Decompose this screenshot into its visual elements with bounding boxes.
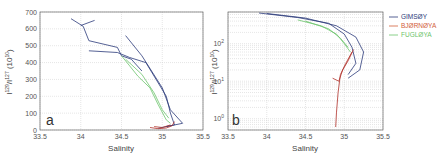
- series-line: [81, 20, 95, 25]
- y-tick-label: 0: [33, 127, 37, 134]
- legend: GIMSØYBJØRNØYAFUGLØYA: [389, 13, 437, 38]
- panel-b-grid: [228, 12, 383, 130]
- panel-a: 33.53434.53535.5 0100200300400500600700 …: [4, 9, 210, 154]
- panel-a-y-ticks: 0100200300400500600700: [25, 9, 37, 134]
- panel-b-y-axis-label: I129/I127 (1010): [209, 49, 219, 95]
- x-tick-label: 35.5: [196, 133, 210, 140]
- x-tick-label: 33.5: [221, 133, 235, 140]
- panel-a-y-axis-label: I129/I127 (1010): [4, 49, 14, 95]
- panel-a-letter: a: [46, 112, 54, 128]
- x-tick-label: 35.5: [376, 133, 390, 140]
- panel-b-letter: b: [232, 112, 240, 128]
- legend-label: GIMSØY: [401, 13, 428, 20]
- series-line: [71, 19, 142, 71]
- series-line: [267, 14, 364, 79]
- legend-label: FUGLØYA: [401, 31, 432, 38]
- panel-b-x-ticks: 33.53434.53535.5: [221, 133, 390, 140]
- panel-a-grid: [40, 12, 203, 130]
- x-tick-label: 34.5: [299, 133, 313, 140]
- y-tick-label: 500: [25, 42, 37, 49]
- y-tick-label: 700: [25, 9, 37, 16]
- x-tick-label: 34: [77, 133, 85, 140]
- panel-a-x-axis-label: Salinity: [108, 144, 134, 153]
- series-line: [89, 51, 175, 129]
- legend-label: BJØRNØYA: [401, 22, 437, 29]
- y-tick-label: 102: [213, 38, 224, 47]
- figure: 33.53434.53535.5 0100200300400500600700 …: [0, 0, 445, 155]
- y-tick-label: 200: [25, 93, 37, 100]
- x-tick-label: 35: [158, 133, 166, 140]
- y-tick-label: 100: [25, 110, 37, 117]
- x-tick-label: 34.5: [115, 133, 129, 140]
- x-tick-label: 35: [340, 133, 348, 140]
- y-tick-label: 400: [25, 59, 37, 66]
- series-line: [306, 21, 349, 47]
- y-tick-label: 300: [25, 76, 37, 83]
- y-tick-label: 600: [25, 25, 37, 32]
- x-tick-label: 33.5: [33, 133, 47, 140]
- x-tick-label: 34: [263, 133, 271, 140]
- panel-a-x-ticks: 33.53434.53535.5: [33, 133, 210, 140]
- panel-b-x-axis-label: Salinity: [292, 144, 318, 153]
- panel-b: 33.53434.53535.5 100101102 b Salinity I1…: [209, 12, 390, 153]
- panel-a-series: [71, 19, 183, 129]
- y-tick-label: 100: [213, 113, 224, 122]
